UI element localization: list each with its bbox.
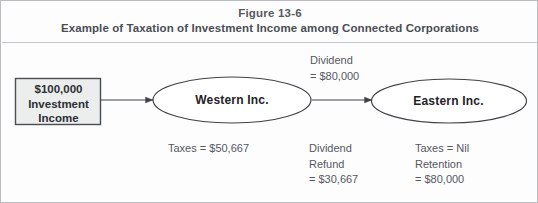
annotation-taxes-western: Taxes = $50,667 xyxy=(168,141,249,157)
figure-container: Figure 13-6 Example of Taxation of Inves… xyxy=(0,0,538,203)
box-line-2: Investment xyxy=(28,98,89,110)
node-eastern-label: Eastern Inc. xyxy=(371,94,526,108)
box-line-3: Income xyxy=(38,112,78,124)
box-line-1: $100,000 xyxy=(35,83,83,95)
annotation-dividend-refund: Dividend Refund = $30,667 xyxy=(309,141,358,188)
annotation-taxes-eastern: Taxes = Nil Retention = $80,000 xyxy=(415,141,469,188)
investment-income-box-label: $100,000InvestmentIncome xyxy=(16,82,101,126)
node-western-label: Western Inc. xyxy=(153,93,311,107)
annotation-dividend-top: Dividend = $80,000 xyxy=(310,53,359,84)
